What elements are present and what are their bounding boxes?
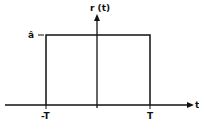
tick-label-neg-T: -T	[41, 111, 50, 121]
function-label: r (t)	[90, 3, 110, 13]
axis-label-t: t	[195, 100, 199, 110]
y-axis-arrow-icon	[94, 14, 100, 21]
x-axis-arrow-icon	[187, 102, 194, 108]
rect-pulse-diagram: r (t) â t -T T	[0, 0, 199, 133]
tick-label-pos-T: T	[147, 111, 154, 121]
amplitude-label: â	[28, 30, 34, 40]
pulse-waveform	[46, 35, 150, 105]
